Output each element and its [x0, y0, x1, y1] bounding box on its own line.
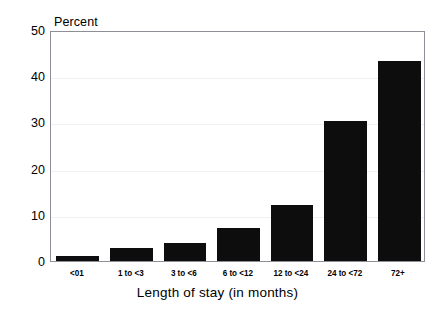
y-tick-20: 20: [11, 164, 45, 176]
chart-title: [120, 0, 320, 8]
bar-chart-figure: Percent 50 40 30 20 10 0 <011 to <33 to …: [0, 0, 435, 310]
bar-1: [56, 256, 99, 261]
x-tick-1: <01: [51, 268, 102, 278]
y-tick-0: 0: [11, 256, 45, 268]
bar-5: [271, 205, 314, 261]
x-tick-5: 12 to <24: [266, 268, 317, 278]
bar-6: [324, 121, 367, 261]
x-tick-4: 6 to <12: [212, 268, 263, 278]
x-tick-3: 3 to <6: [158, 268, 209, 278]
y-tick-10: 10: [11, 210, 45, 222]
y-tick-40: 40: [11, 71, 45, 83]
bar-7: [378, 61, 421, 261]
y-axis-title: Percent: [54, 16, 98, 29]
x-tick-6: 24 to <72: [319, 268, 370, 278]
bar-3: [164, 243, 207, 261]
x-tick-7: 72+: [373, 268, 424, 278]
y-axis-tick-labels: 50 40 30 20 10 0: [0, 0, 45, 310]
bar-2: [110, 248, 153, 261]
y-tick-30: 30: [11, 117, 45, 129]
x-axis-title: Length of stay (in months): [0, 285, 435, 300]
x-tick-2: 1 to <3: [105, 268, 156, 278]
y-tick-50: 50: [11, 25, 45, 37]
gridline-40: [51, 78, 424, 79]
gridline-10: [51, 217, 424, 218]
gridline-30: [51, 124, 424, 125]
gridline-20: [51, 171, 424, 172]
plot-area: [50, 31, 425, 262]
bar-4: [217, 228, 260, 261]
